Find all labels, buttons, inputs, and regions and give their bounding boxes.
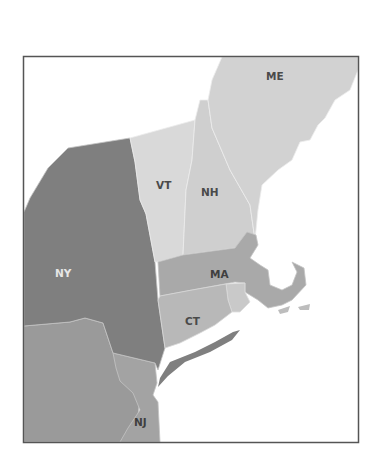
label-MA: MA	[210, 268, 229, 280]
label-NH: NH	[201, 186, 219, 198]
label-VT: VT	[156, 179, 172, 191]
label-NY: NY	[55, 267, 72, 279]
northeast-map: ME VT NH NY MA CT NJ	[0, 0, 385, 466]
label-ME: ME	[266, 70, 284, 82]
label-CT: CT	[185, 315, 201, 327]
label-NJ: NJ	[134, 416, 147, 428]
